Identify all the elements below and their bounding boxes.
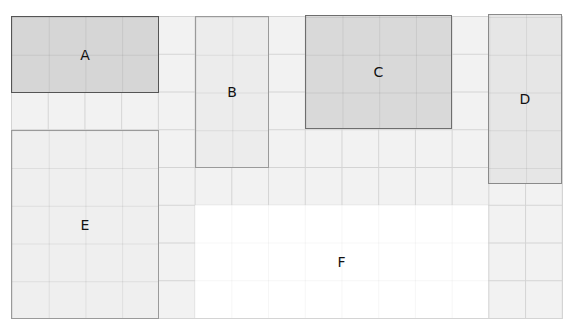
block-label: B bbox=[227, 84, 237, 100]
block-label: E bbox=[81, 217, 90, 233]
block-f: F bbox=[195, 205, 488, 318]
block-e: E bbox=[11, 130, 159, 319]
block-label: D bbox=[520, 91, 531, 107]
block-label: C bbox=[374, 64, 384, 80]
block-d: D bbox=[488, 14, 562, 184]
block-c: C bbox=[305, 15, 452, 129]
block-label: F bbox=[337, 254, 345, 270]
block-b: B bbox=[195, 16, 269, 168]
block-label: A bbox=[80, 47, 90, 63]
block-a: A bbox=[11, 16, 159, 93]
